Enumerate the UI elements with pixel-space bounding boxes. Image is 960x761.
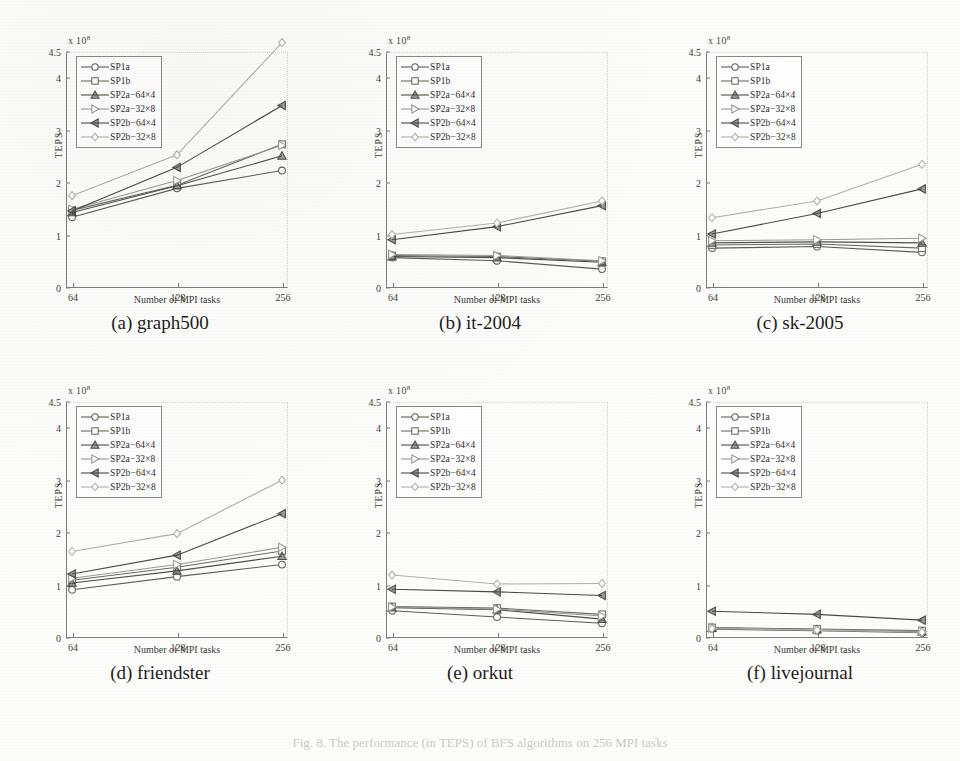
subplot-b: x 10864128256012344.5TEPSNumber of MPI t… [320, 0, 640, 350]
legend-item-SP1b[interactable]: SP1b [720, 74, 796, 88]
plot-area-a: x 10864128256012344.5TEPSNumber of MPI t… [66, 22, 288, 290]
data-point [494, 614, 501, 621]
subplot-caption-d: (d) friendster [0, 662, 320, 684]
legend-label-SP1b: SP1b [750, 76, 770, 86]
legend-item-SP2b-32x8[interactable]: SP2b−32×8 [400, 480, 476, 494]
data-point [279, 167, 286, 174]
y-axis-exponent-power: 8 [727, 384, 731, 392]
legend-label-SP2a-64x4: SP2a−64×4 [750, 440, 795, 450]
legend-swatch-SP1b [80, 74, 110, 88]
legend-item-SP1b[interactable]: SP1b [80, 424, 156, 438]
legend-swatch-SP2b-32x8 [400, 480, 430, 494]
legend-item-SP1b[interactable]: SP1b [400, 74, 476, 88]
legend-item-SP1b[interactable]: SP1b [400, 424, 476, 438]
legend-label-SP2b-32x8: SP2b−32×8 [750, 132, 796, 142]
legend-label-SP1b: SP1b [750, 426, 770, 436]
legend-item-SP2b-64x4[interactable]: SP2b−64×4 [400, 116, 476, 130]
y-tick-label-b-5: 4.5 [369, 47, 382, 58]
legend-label-SP2b-32x8: SP2b−32×8 [430, 132, 476, 142]
plot-panel-e: x 10864128256012344.5TEPSNumber of MPI t… [320, 350, 640, 660]
subplot-a: x 10864128256012344.5TEPSNumber of MPI t… [0, 0, 320, 350]
legend-swatch-SP2b-32x8 [720, 130, 750, 144]
legend-item-SP1b[interactable]: SP1b [720, 424, 796, 438]
data-point [278, 101, 286, 109]
legend-item-SP2b-32x8[interactable]: SP2b−32×8 [400, 130, 476, 144]
y-tick-label-f-1: 1 [696, 580, 701, 591]
subplot-c: x 10864128256012344.5TEPSNumber of MPI t… [640, 0, 960, 350]
legend-swatch-SP2b-32x8 [80, 480, 110, 494]
legend-item-SP2b-32x8[interactable]: SP2b−32×8 [720, 480, 796, 494]
legend-item-SP2b-64x4[interactable]: SP2b−64×4 [720, 466, 796, 480]
legend-item-SP1a[interactable]: SP1a [80, 410, 156, 424]
legend-item-SP2b-64x4[interactable]: SP2b−64×4 [400, 466, 476, 480]
data-point [173, 551, 181, 559]
y-axis-exponent-power: 8 [407, 384, 411, 392]
legend-label-SP2a-32x8: SP2a−32×8 [750, 104, 795, 114]
legend-item-SP2b-64x4[interactable]: SP2b−64×4 [80, 116, 156, 130]
legend-item-SP2a-32x8[interactable]: SP2a−32×8 [400, 452, 476, 466]
legend-item-SP2a-32x8[interactable]: SP2a−32×8 [720, 102, 796, 116]
legend-item-SP2a-32x8[interactable]: SP2a−32×8 [720, 452, 796, 466]
x-axis-title-f: Number of MPI tasks [706, 644, 928, 655]
y-axis-title-e: TEPS [374, 450, 384, 540]
series-SP2b-32x8 [389, 571, 606, 588]
data-point [598, 591, 606, 599]
y-tick-label-e-0: 0 [376, 633, 381, 644]
legend-label-SP2a-32x8: SP2a−32×8 [110, 454, 155, 464]
x-axis-title-b: Number of MPI tasks [386, 294, 608, 305]
data-point [494, 580, 501, 588]
series-SP1a [69, 167, 286, 220]
legend-item-SP2b-32x8[interactable]: SP2b−32×8 [80, 480, 156, 494]
figure-root: x 10864128256012344.5TEPSNumber of MPI t… [0, 0, 960, 761]
y-axis-exponent-e: x 108 [388, 384, 411, 396]
legend-label-SP1a: SP1a [110, 412, 130, 422]
plot-area-d: x 10864128256012344.5TEPSNumber of MPI t… [66, 372, 288, 640]
y-axis-exponent-base: x 10 [708, 385, 727, 396]
data-point [278, 510, 286, 518]
legend-swatch-SP1b [400, 424, 430, 438]
subplot-caption-f: (f) livejournal [640, 662, 960, 684]
legend-item-SP1b[interactable]: SP1b [80, 74, 156, 88]
y-axis-exponent-power: 8 [87, 34, 91, 42]
legend-swatch-SP2b-32x8 [80, 130, 110, 144]
plot-panel-b: x 10864128256012344.5TEPSNumber of MPI t… [320, 0, 640, 310]
legend-item-SP2b-32x8[interactable]: SP2b−32×8 [80, 130, 156, 144]
legend-swatch-SP2a-64x4 [80, 88, 110, 102]
legend-label-SP1a: SP1a [430, 412, 450, 422]
legend-item-SP2a-32x8[interactable]: SP2a−32×8 [400, 102, 476, 116]
legend-item-SP1a[interactable]: SP1a [400, 410, 476, 424]
legend-item-SP2a-64x4[interactable]: SP2a−64×4 [80, 88, 156, 102]
y-axis-exponent-power: 8 [407, 34, 411, 42]
legend-item-SP2a-64x4[interactable]: SP2a−64×4 [400, 438, 476, 452]
y-axis-title-a: TEPS [54, 100, 64, 190]
legend-label-SP2a-64x4: SP2a−64×4 [430, 440, 475, 450]
y-axis-exponent-d: x 108 [68, 384, 91, 396]
legend-label-SP1b: SP1b [110, 76, 130, 86]
legend-item-SP2a-64x4[interactable]: SP2a−64×4 [80, 438, 156, 452]
legend-item-SP2a-32x8[interactable]: SP2a−32×8 [80, 452, 156, 466]
legend-swatch-SP1a [400, 60, 430, 74]
legend-item-SP2a-64x4[interactable]: SP2a−64×4 [400, 88, 476, 102]
y-tick-label-a-0: 0 [56, 283, 61, 294]
data-point [174, 530, 181, 538]
legend-item-SP2a-64x4[interactable]: SP2a−64×4 [720, 438, 796, 452]
legend-label-SP2b-64x4: SP2b−64×4 [750, 118, 796, 128]
legend-d: SP1aSP1bSP2a−64×4SP2a−32×8SP2b−64×4SP2b−… [76, 406, 162, 498]
data-point [918, 185, 926, 193]
legend-item-SP2a-64x4[interactable]: SP2a−64×4 [720, 88, 796, 102]
legend-swatch-SP1a [80, 60, 110, 74]
legend-item-SP1a[interactable]: SP1a [720, 60, 796, 74]
legend-item-SP2b-64x4[interactable]: SP2b−64×4 [80, 466, 156, 480]
legend-item-SP2b-64x4[interactable]: SP2b−64×4 [720, 116, 796, 130]
legend-item-SP1a[interactable]: SP1a [400, 60, 476, 74]
legend-item-SP2a-32x8[interactable]: SP2a−32×8 [80, 102, 156, 116]
legend-swatch-SP2b-32x8 [720, 480, 750, 494]
y-axis-title-d: TEPS [54, 450, 64, 540]
subplot-f: x 10864128256012344.5TEPSNumber of MPI t… [640, 350, 960, 700]
legend-item-SP1a[interactable]: SP1a [80, 60, 156, 74]
legend-item-SP1a[interactable]: SP1a [720, 410, 796, 424]
legend-swatch-SP2a-64x4 [80, 438, 110, 452]
figure-caption: Fig. 8. The performance (in TEPS) of BFS… [0, 735, 960, 751]
y-tick-label-c-0: 0 [696, 283, 701, 294]
legend-item-SP2b-32x8[interactable]: SP2b−32×8 [720, 130, 796, 144]
